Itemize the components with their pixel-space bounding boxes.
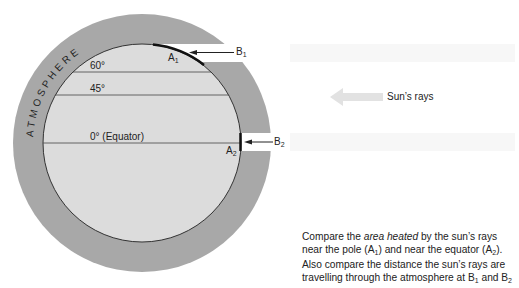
caption-emphasis: area heated (364, 231, 418, 242)
label-a2: A2 (226, 146, 237, 157)
latitude-60-label: 60° (90, 61, 105, 71)
caption-text: Compare the area heated by the sun’s ray… (302, 231, 517, 287)
label-a1: A1 (168, 53, 179, 64)
sun-rays-label: Sun’s rays (387, 91, 434, 102)
sun-rays-arrow-icon (330, 88, 383, 106)
label-b2: B2 (274, 137, 285, 148)
latitude-45-label: 45° (90, 84, 105, 94)
equator-label: 0° (Equator) (90, 132, 144, 142)
label-b1: B1 (236, 47, 247, 58)
